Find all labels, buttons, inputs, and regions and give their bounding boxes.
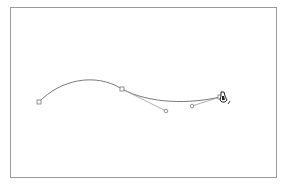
bezier-path[interactable]	[39, 80, 220, 102]
control-handle-line	[192, 97, 220, 106]
anchor-point-selected[interactable]	[120, 87, 124, 91]
vector-drawing-surface[interactable]	[0, 0, 289, 186]
pen-tool-cursor-icon	[220, 92, 230, 104]
control-handle-point[interactable]	[190, 104, 194, 108]
anchor-point[interactable]	[37, 100, 41, 104]
control-handle-point[interactable]	[164, 109, 168, 113]
